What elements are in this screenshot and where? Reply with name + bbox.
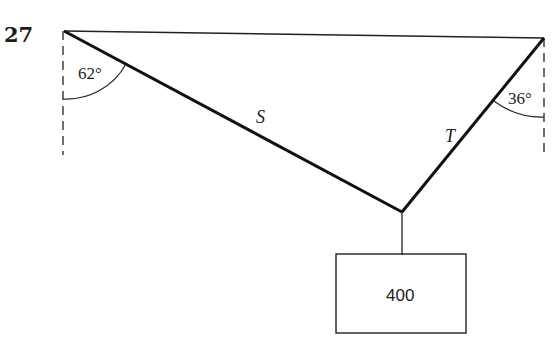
rope-s bbox=[64, 31, 402, 212]
force-diagram: 27 62° 36° S T 400 bbox=[0, 0, 558, 342]
right-angle-label: 36° bbox=[508, 89, 532, 108]
rope-t-label: T bbox=[445, 126, 457, 146]
rope-t bbox=[402, 38, 544, 212]
ceiling-line bbox=[64, 31, 544, 38]
left-angle-label: 62° bbox=[78, 64, 102, 83]
rope-s-label: S bbox=[256, 107, 265, 127]
weight-label: 400 bbox=[386, 286, 414, 305]
problem-number: 27 bbox=[4, 22, 33, 47]
